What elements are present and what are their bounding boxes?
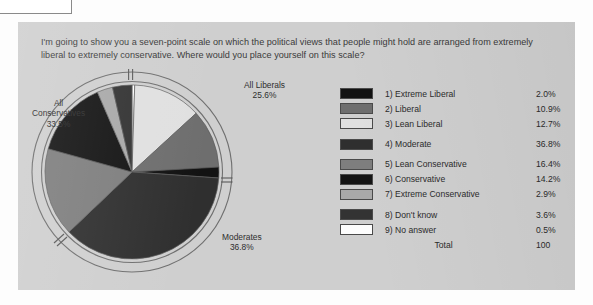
legend-value: 2.9%: [536, 189, 570, 199]
pie-label-all-conservatives-name-2: Conservatives: [32, 108, 85, 118]
legend-label: 7) Extreme Conservative: [385, 189, 536, 199]
legend-swatch: [340, 139, 373, 150]
legend-label: 2) Liberal: [385, 104, 536, 114]
legend-label: 3) Lean Liberal: [385, 119, 536, 129]
pie-label-all-conservatives: All Conservatives 33.5%: [32, 98, 85, 129]
legend-swatch: [340, 209, 373, 220]
chart-legend: 1) Extreme Liberal2.0%2) Liberal10.9%3) …: [340, 86, 570, 253]
legend-total-value: 100: [536, 240, 570, 250]
legend-swatch: [340, 88, 373, 99]
legend-value: 3.6%: [536, 210, 570, 220]
pie-label-all-liberals-name: All Liberals: [244, 80, 285, 90]
legend-row: 4) Moderate36.8%: [340, 136, 570, 151]
legend-row: 6) Conservative14.2%: [340, 172, 570, 187]
figure-panel: I'm going to show you a seven-point scal…: [18, 22, 575, 290]
legend-label: 1) Extreme Liberal: [385, 89, 536, 99]
group-tick-lower-left: [54, 234, 67, 246]
pie-label-moderates-name: Moderates: [222, 232, 262, 242]
legend-value: 14.2%: [536, 174, 570, 184]
pie-label-moderates-value: 36.8%: [222, 242, 262, 252]
legend-value: 16.4%: [536, 159, 570, 169]
pie-label-all-conservatives-name-1: All: [32, 98, 85, 108]
legend-swatch: [340, 159, 373, 170]
corner-crop-box: [0, 0, 72, 14]
legend-label: 6) Conservative: [385, 174, 536, 184]
pie-label-all-liberals: All Liberals 25.6%: [244, 80, 285, 101]
legend-row: 3) Lean Liberal12.7%: [340, 116, 570, 131]
pie-chart-area: All Liberals 25.6% All Conservatives 33.…: [26, 66, 336, 286]
group-tick-top: [129, 69, 133, 80]
pie-label-all-conservatives-value: 33.5%: [32, 119, 85, 129]
legend-row: 9) No answer0.5%: [340, 222, 570, 237]
pie-label-all-liberals-value: 25.6%: [244, 90, 285, 100]
legend-swatch: [340, 118, 373, 129]
question-text: I'm going to show you a seven-point scal…: [41, 36, 551, 62]
legend-value: 12.7%: [536, 119, 570, 129]
legend-label: 5) Lean Conservative: [385, 159, 536, 169]
legend-total-label: Total: [385, 240, 536, 250]
legend-row: 7) Extreme Conservative2.9%: [340, 187, 570, 202]
legend-swatch: [340, 224, 373, 235]
legend-label: 9) No answer: [385, 225, 536, 235]
legend-value: 0.5%: [536, 225, 570, 235]
legend-label: 8) Don't know: [385, 210, 536, 220]
legend-row: 2) Liberal10.9%: [340, 101, 570, 116]
legend-total-row: Total100: [340, 237, 570, 252]
legend-swatch: [340, 189, 373, 200]
legend-value: 10.9%: [536, 104, 570, 114]
legend-row: 8) Don't know3.6%: [340, 207, 570, 222]
legend-label: 4) Moderate: [385, 139, 536, 149]
legend-value: 2.0%: [536, 89, 570, 99]
legend-value: 36.8%: [536, 139, 570, 149]
legend-row: 5) Lean Conservative16.4%: [340, 157, 570, 172]
legend-swatch: [340, 174, 373, 185]
legend-row: 1) Extreme Liberal2.0%: [340, 86, 570, 101]
legend-swatch: [340, 103, 373, 114]
pie-label-moderates: Moderates 36.8%: [222, 232, 262, 253]
